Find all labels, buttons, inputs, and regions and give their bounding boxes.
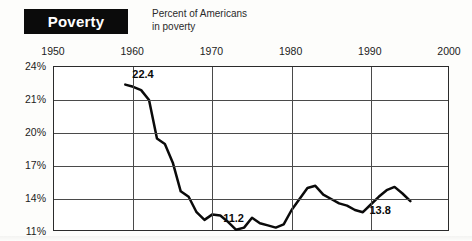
y-tick-14: 14% bbox=[25, 192, 46, 204]
gridline-horizontal bbox=[54, 133, 448, 134]
callout-end-1995: 13.8 bbox=[369, 204, 390, 216]
callout-peak-1959: 22.4 bbox=[132, 68, 153, 80]
gridline-horizontal bbox=[54, 100, 448, 101]
y-tick-20: 20% bbox=[25, 126, 46, 138]
y-tick-21: 21% bbox=[25, 93, 46, 105]
gridline-vertical bbox=[133, 67, 134, 230]
gridline-vertical bbox=[292, 67, 293, 230]
gridline-vertical bbox=[212, 67, 213, 230]
x-tick-2000: 2000 bbox=[437, 45, 460, 57]
x-tick-1970: 1970 bbox=[200, 45, 223, 57]
subtitle-line-2: in poverty bbox=[152, 21, 332, 34]
gridline-horizontal bbox=[54, 166, 448, 167]
callout-low-1973: 11.2 bbox=[223, 212, 244, 224]
x-tick-1960: 1960 bbox=[121, 45, 144, 57]
x-tick-1980: 1980 bbox=[279, 45, 302, 57]
x-tick-1990: 1990 bbox=[358, 45, 381, 57]
y-tick-17: 17% bbox=[25, 159, 46, 171]
poverty-chart-figure: Poverty Percent of Americans in poverty … bbox=[0, 0, 472, 241]
y-axis-tick-labels: 24%21%20%17%14%11% bbox=[0, 0, 52, 241]
y-tick-24: 24% bbox=[25, 60, 46, 72]
scan-edge-shadow bbox=[0, 236, 472, 241]
chart-subtitle: Percent of Americans in poverty bbox=[152, 8, 332, 33]
subtitle-line-1: Percent of Americans bbox=[152, 8, 332, 21]
poverty-rate-line bbox=[125, 85, 410, 230]
gridline-horizontal bbox=[54, 199, 448, 200]
x-axis-tick-labels: 195019601970198019902000 bbox=[0, 45, 472, 59]
